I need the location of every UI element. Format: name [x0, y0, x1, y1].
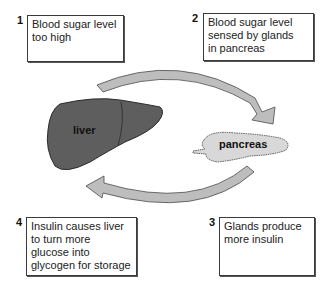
- step-1-line-2: too high: [32, 31, 119, 44]
- step-1-line-1: Blood sugar level: [32, 18, 119, 31]
- step-1-box: Blood sugar level too high: [27, 15, 124, 62]
- step-4-line-3: glucose into: [31, 246, 132, 259]
- step-2-box: Blood sugar level sensed by glands in pa…: [203, 13, 314, 61]
- step-2-line-1: Blood sugar level: [208, 16, 309, 29]
- arrow-pancreas-to-liver: [86, 166, 254, 203]
- step-3-line-2: more insulin: [224, 233, 310, 246]
- step-2-line-2: sensed by glands: [208, 29, 309, 42]
- step-3-number: 3: [209, 217, 215, 228]
- step-4-line-2: to turn more: [31, 233, 132, 246]
- blood-sugar-regulation-diagram: liver pancreas 1 Blood sugar level too h…: [0, 0, 333, 293]
- step-3-box: Glands produce more insulin: [219, 217, 315, 276]
- pancreas-label: pancreas: [219, 138, 267, 150]
- step-2-number: 2: [192, 13, 198, 24]
- liver-shape: [47, 99, 162, 170]
- step-3-line-1: Glands produce: [224, 220, 310, 233]
- step-2-line-3: in pancreas: [208, 42, 309, 55]
- step-4-number: 4: [16, 217, 22, 228]
- liver-label: liver: [73, 124, 96, 136]
- step-4-line-4: glycogen for storage: [31, 259, 132, 272]
- step-1-number: 1: [17, 15, 23, 26]
- step-4-line-1: Insulin causes liver: [31, 220, 132, 233]
- step-4-box: Insulin causes liver to turn more glucos…: [26, 217, 137, 276]
